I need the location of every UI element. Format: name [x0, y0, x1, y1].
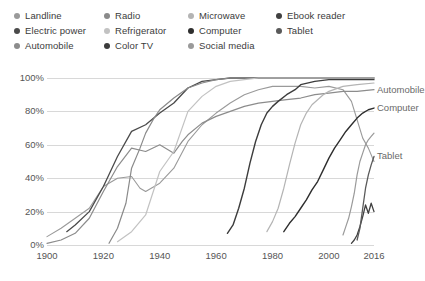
legend-item-label: Color TV — [115, 41, 153, 51]
x-axis-tick-label: 2000 — [318, 251, 339, 261]
legend-item[interactable]: Electric power — [14, 23, 86, 38]
x-axis-tick-label: 1940 — [149, 251, 170, 261]
legend-item[interactable]: Automobile — [14, 38, 86, 53]
legend-item[interactable]: Social media — [188, 38, 255, 53]
legend-item-label: Microwave — [199, 11, 245, 21]
series-line — [357, 156, 374, 240]
legend-swatch-icon — [14, 43, 20, 49]
series-line — [47, 86, 374, 236]
chart-legend: LandlineElectric powerAutomobileRadioRef… — [0, 8, 394, 58]
plot-area — [47, 78, 374, 245]
legend-item[interactable]: Microwave — [188, 8, 255, 23]
x-axis-tick-label: 2016 — [363, 251, 384, 261]
legend-item[interactable]: Color TV — [104, 38, 166, 53]
legend-column: RadioRefrigeratorColor TV — [104, 8, 166, 53]
series-line — [109, 78, 374, 243]
series-annotation: Tablet — [377, 151, 402, 161]
y-axis-tick-label: 80% — [4, 106, 44, 116]
series-line — [343, 133, 374, 235]
legend-swatch-icon — [276, 13, 282, 19]
legend-column: Ebook readerTablet — [276, 8, 345, 38]
series-annotation: Computer — [377, 103, 419, 113]
legend-swatch-icon — [188, 28, 194, 34]
legend-swatch-icon — [104, 28, 110, 34]
y-axis: 0%20%40%60%80%100% — [0, 78, 44, 245]
legend-column: MicrowaveComputerSocial media — [188, 8, 255, 53]
y-axis-tick-label: 0% — [4, 240, 44, 250]
series-line — [284, 108, 374, 232]
y-axis-tick-label: 40% — [4, 173, 44, 183]
legend-item[interactable]: Landline — [14, 8, 86, 23]
legend-item-label: Computer — [199, 26, 242, 36]
legend-item-label: Automobile — [25, 41, 74, 51]
legend-swatch-icon — [188, 43, 194, 49]
legend-item[interactable]: Tablet — [276, 23, 345, 38]
legend-item[interactable]: Computer — [188, 23, 255, 38]
legend-item-label: Social media — [199, 41, 255, 51]
legend-swatch-icon — [14, 13, 20, 19]
legend-swatch-icon — [104, 43, 110, 49]
x-axis-tick-label: 1980 — [262, 251, 283, 261]
x-axis-tick-label: 1920 — [93, 251, 114, 261]
x-axis: 1900192019401960198020002016 — [47, 249, 374, 263]
legend-item[interactable]: Ebook reader — [276, 8, 345, 23]
series-line — [267, 83, 374, 232]
legend-item-label: Ebook reader — [287, 11, 345, 21]
legend-item-label: Landline — [25, 11, 62, 21]
legend-swatch-icon — [188, 13, 194, 19]
series-lines — [47, 78, 374, 245]
series-annotation: Automobile — [377, 85, 425, 95]
y-axis-tick-label: 100% — [4, 73, 44, 83]
gridline — [47, 245, 374, 246]
legend-item-label: Electric power — [25, 26, 86, 36]
legend-column: LandlineElectric powerAutomobile — [14, 8, 86, 53]
y-axis-tick-label: 20% — [4, 207, 44, 217]
legend-swatch-icon — [14, 28, 20, 34]
y-axis-tick-label: 60% — [4, 140, 44, 150]
legend-item[interactable]: Radio — [104, 8, 166, 23]
legend-item[interactable]: Refrigerator — [104, 23, 166, 38]
x-axis-tick-label: 1900 — [36, 251, 57, 261]
series-line — [67, 78, 374, 232]
x-axis-tick-label: 1960 — [206, 251, 227, 261]
legend-swatch-icon — [276, 28, 282, 34]
legend-item-label: Tablet — [287, 26, 313, 36]
series-line — [117, 78, 374, 242]
legend-item-label: Radio — [115, 11, 140, 21]
legend-swatch-icon — [104, 13, 110, 19]
legend-item-label: Refrigerator — [115, 26, 166, 36]
